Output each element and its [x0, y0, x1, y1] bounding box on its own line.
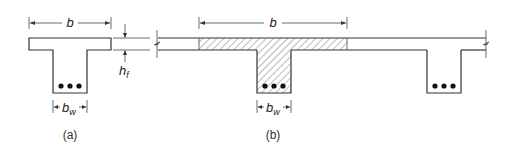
dim-b-label-a: b — [66, 15, 73, 30]
caption-a: (a) — [63, 128, 78, 142]
rebar-group-b-adjacent — [432, 83, 455, 88]
dimension-b-b: b — [199, 15, 347, 30]
dimension-bw-a: bw — [53, 100, 87, 117]
dimension-bw-b: bw — [257, 100, 291, 117]
caption-b: (b) — [266, 128, 281, 142]
dim-bw-label-b: bw — [266, 100, 280, 117]
rebar-group-a — [58, 83, 81, 88]
dim-hf-label: hf — [119, 63, 130, 80]
panel-a-isolated-t-beam: b hf bw (a) — [29, 15, 150, 142]
break-line-right — [483, 30, 489, 58]
dimension-b-a: b — [29, 15, 111, 30]
rebar-group-b-main — [262, 83, 285, 88]
dim-b-label-b: b — [269, 15, 276, 30]
t-beam-diagram: b hf bw (a) — [0, 0, 514, 147]
dim-bw-label-a: bw — [62, 100, 76, 117]
break-line-left — [154, 30, 160, 58]
panel-b-slab-with-beams: b bw (b) — [154, 15, 489, 142]
dimension-hf: hf — [113, 24, 150, 80]
